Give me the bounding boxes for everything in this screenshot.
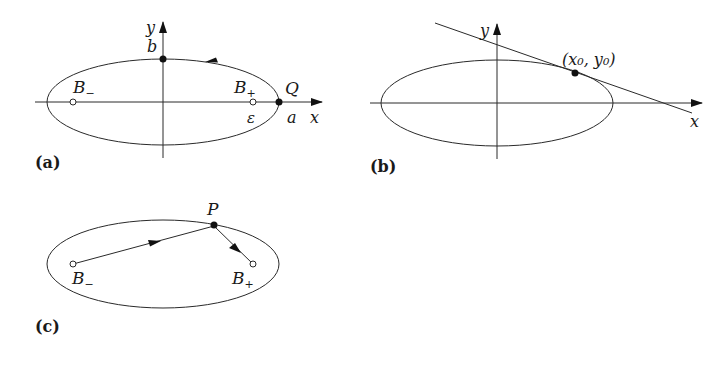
ray-arrow-icon (148, 240, 161, 247)
point-p (211, 222, 218, 229)
label-b-minus-c: B− (71, 268, 94, 291)
ray-b-minus-to-p (73, 226, 214, 264)
ellipse-c (47, 220, 279, 308)
x-axis-label-b: x (690, 112, 699, 131)
panel-a: y b Q a x ε B− B+ (a) (35, 18, 322, 172)
label-b: b (147, 37, 157, 56)
label-epsilon: ε (247, 109, 255, 127)
label-tangent-point: (x₀, y₀) (562, 50, 616, 69)
y-axis-label-b: y (479, 21, 490, 40)
panel-c: P B− B+ (c) (35, 199, 279, 336)
panel-b: y x (x₀, y₀) (b) (370, 21, 702, 176)
focus-b-minus-a (70, 99, 76, 105)
label-b-minus-a: B− (72, 77, 95, 100)
label-b-plus-c: B+ (231, 268, 254, 291)
label-p: P (206, 199, 219, 219)
orbit-direction-arrow-icon (205, 58, 218, 63)
label-a-semimajor: a (287, 108, 297, 127)
x-axis-label-a: x (310, 108, 319, 127)
reflected-ray-arrow-icon (229, 243, 241, 253)
panel-label-b: (b) (370, 157, 396, 176)
label-b-plus-a: B+ (233, 77, 256, 100)
focus-b-plus-c (250, 261, 256, 267)
point-q (276, 99, 283, 106)
panel-label-a: (a) (35, 153, 61, 172)
label-q: Q (285, 78, 299, 98)
panel-label-c: (c) (35, 317, 60, 336)
point-b (160, 56, 167, 63)
focus-b-minus-c (70, 261, 76, 267)
figure-canvas: y b Q a x ε B− B+ (a) y x (x₀, y₀) (b) P… (0, 0, 726, 366)
tangent-point (572, 70, 579, 77)
y-axis-label-a: y (145, 18, 156, 37)
